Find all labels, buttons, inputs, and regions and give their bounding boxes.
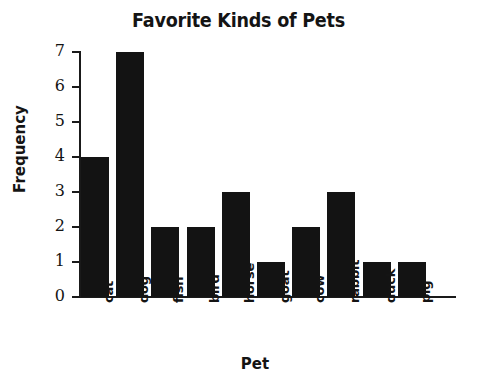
y-tick-mark (72, 296, 80, 298)
chart-title: Favorite Kinds of Pets (29, 8, 449, 32)
y-tick-label: 2 (25, 218, 65, 234)
x-tick-label: duck (363, 303, 391, 355)
y-tick-mark (72, 191, 80, 193)
x-tick-label: pig (398, 303, 426, 355)
y-tick-label: 5 (25, 113, 65, 129)
y-tick-mark (72, 261, 80, 263)
y-tick-label: 3 (25, 183, 65, 199)
y-tick-label: 6 (25, 78, 65, 94)
x-tick-label: horse (222, 303, 250, 355)
bar (81, 157, 109, 297)
y-tick-mark (72, 86, 80, 88)
y-tick-mark (72, 156, 80, 158)
x-tick-label: dog (116, 303, 144, 355)
x-axis-title: Pet (185, 355, 325, 373)
x-tick-label: cat (81, 303, 109, 355)
y-tick-mark (72, 51, 80, 53)
x-tick-label: goat (257, 303, 285, 355)
plot-area (81, 52, 455, 297)
x-tick-label: bird (187, 303, 215, 355)
y-tick-mark (72, 121, 80, 123)
x-tick-label: cow (292, 303, 320, 355)
y-tick-mark (72, 226, 80, 228)
bar (116, 52, 144, 297)
y-tick-label: 4 (25, 148, 65, 164)
x-tick-label: fish (151, 303, 179, 355)
x-tick-label: rabbit (327, 303, 355, 355)
y-tick-label: 7 (25, 43, 65, 59)
y-tick-label: 0 (25, 288, 65, 304)
bar-chart: Favorite Kinds of Pets Frequency 0123456… (0, 0, 477, 381)
y-tick-label: 1 (25, 253, 65, 269)
